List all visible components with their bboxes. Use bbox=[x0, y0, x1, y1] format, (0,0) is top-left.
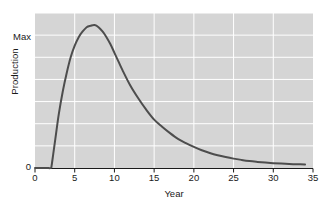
y-tick-max-wrap: Max bbox=[0, 31, 31, 43]
plot-background bbox=[35, 13, 313, 168]
x-tick-label-25: 25 bbox=[222, 172, 246, 183]
y-tick-label-max: Max bbox=[13, 31, 31, 42]
y-axis-label: Production bbox=[9, 32, 20, 112]
production-decline-chart: Production Max 0 05101520253035 Year bbox=[0, 0, 333, 207]
x-tick-label-20: 20 bbox=[182, 172, 206, 183]
x-tick-label-30: 30 bbox=[261, 172, 285, 183]
x-tick-label-10: 10 bbox=[102, 172, 126, 183]
x-tick-label-0: 0 bbox=[23, 172, 47, 183]
x-axis-label: Year bbox=[35, 188, 313, 199]
x-tick-label-35: 35 bbox=[301, 172, 325, 183]
y-tick-label-zero: 0 bbox=[26, 161, 31, 172]
x-tick-label-5: 5 bbox=[63, 172, 87, 183]
x-tick-label-15: 15 bbox=[142, 172, 166, 183]
